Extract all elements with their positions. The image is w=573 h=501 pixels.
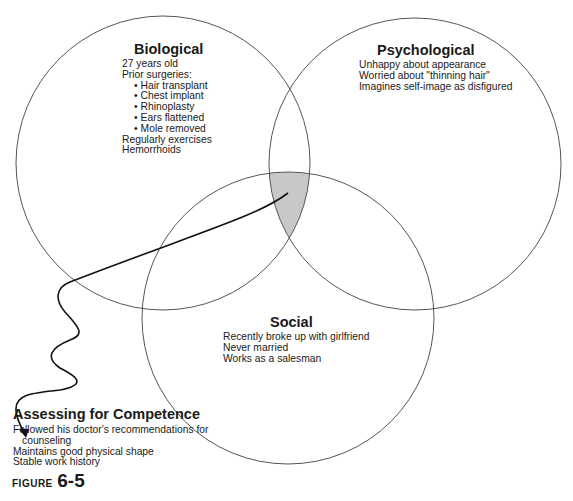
list-item: Mole removed bbox=[122, 124, 212, 135]
psychological-list: Unhappy about appearance Worried about "… bbox=[359, 60, 512, 92]
list-item: Prior surgeries: bbox=[122, 70, 212, 81]
list-item: Works as a salesman bbox=[223, 354, 370, 365]
biological-title: Biological bbox=[134, 41, 203, 57]
list-item: Stable work history bbox=[13, 457, 208, 468]
biological-list: 27 years old Prior surgeries: Hair trans… bbox=[122, 59, 212, 156]
list-item: Hemorrhoids bbox=[122, 145, 212, 156]
list-item: Imagines self-image as disfigured bbox=[359, 82, 512, 93]
social-title: Social bbox=[270, 314, 313, 330]
wavy-arrow-connector bbox=[16, 193, 288, 432]
figure-label: FIGURE 6-5 bbox=[12, 470, 85, 492]
competence-list: Followed his doctor's recommendations fo… bbox=[13, 425, 208, 468]
figure-label-number: 6-5 bbox=[57, 470, 84, 491]
competence-title: Assessing for Competence bbox=[13, 406, 200, 422]
list-item: counseling bbox=[13, 436, 208, 447]
social-list: Recently broke up with girlfriend Never … bbox=[223, 332, 370, 364]
psychological-title: Psychological bbox=[377, 42, 475, 58]
list-item: Worried about "thinning hair" bbox=[359, 71, 512, 82]
figure-label-word: FIGURE bbox=[12, 478, 53, 489]
list-item: Never married bbox=[223, 343, 370, 354]
